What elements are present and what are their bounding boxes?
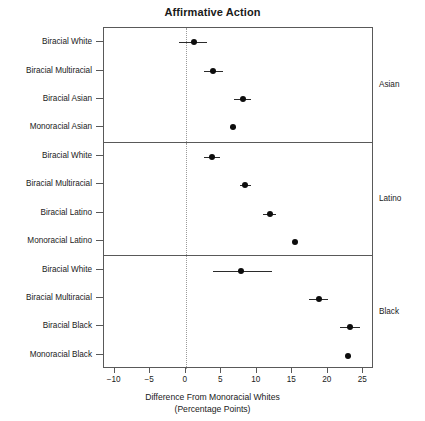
- panel-black: [104, 255, 372, 369]
- y-tick-label: Biracial Latino: [41, 207, 92, 216]
- data-point: [316, 296, 322, 302]
- zero-reference-line: [186, 256, 187, 369]
- y-tick-mark: [96, 126, 103, 127]
- x-tick-label: 15: [287, 375, 296, 384]
- data-point: [345, 353, 351, 359]
- x-tick-mark: [114, 368, 115, 373]
- y-tick-mark: [96, 212, 103, 213]
- x-tick-mark: [327, 368, 328, 373]
- y-tick-mark: [96, 240, 103, 241]
- y-tick-label: Biracial Multiracial: [26, 65, 92, 74]
- data-point: [191, 39, 197, 45]
- x-tick-mark: [256, 368, 257, 373]
- strip-label-asian: Asian: [379, 79, 399, 88]
- x-axis-title-line1: Difference From Monoracial Whites: [0, 392, 425, 404]
- x-tick-mark: [149, 368, 150, 373]
- x-tick-mark: [220, 368, 221, 373]
- data-point: [347, 324, 353, 330]
- y-tick-label: Biracial White: [42, 264, 92, 273]
- strip-label-black: Black: [379, 307, 399, 316]
- panel-strip-labels: AsianLatinoBlack: [376, 27, 425, 368]
- data-point: [230, 124, 236, 130]
- y-tick-label: Biracial Multiracial: [26, 179, 92, 188]
- y-tick-label: Monoracial Asian: [30, 122, 92, 131]
- panel-latino: [104, 142, 372, 256]
- panel-plot-area: [104, 28, 372, 142]
- data-point: [242, 182, 248, 188]
- x-tick-label: −10: [107, 375, 121, 384]
- chart-title: Affirmative Action: [0, 6, 425, 18]
- data-point: [267, 211, 273, 217]
- x-tick-label: 10: [251, 375, 260, 384]
- x-tick-label: −5: [145, 375, 154, 384]
- y-tick-label: Biracial White: [42, 37, 92, 46]
- y-axis-labels: Biracial WhiteBiracial MultiracialBiraci…: [0, 27, 103, 368]
- x-tick-label: 20: [322, 375, 331, 384]
- y-tick-mark: [96, 297, 103, 298]
- x-tick-label: 0: [182, 375, 187, 384]
- x-axis-title-line2: (Percentage Points): [0, 404, 425, 416]
- y-tick-mark: [96, 269, 103, 270]
- y-tick-mark: [96, 155, 103, 156]
- strip-label-latino: Latino: [379, 193, 401, 202]
- y-tick-mark: [96, 183, 103, 184]
- y-tick-mark: [96, 98, 103, 99]
- y-tick-label: Biracial Multiracial: [26, 292, 92, 301]
- y-tick-label: Biracial White: [42, 150, 92, 159]
- y-tick-label: Monoracial Black: [30, 349, 92, 358]
- x-tick-label: 25: [358, 375, 367, 384]
- y-tick-mark: [96, 70, 103, 71]
- data-point: [238, 268, 244, 274]
- panel-asian: [104, 28, 372, 142]
- x-tick-label: 5: [218, 375, 223, 384]
- y-tick-label: Biracial Asian: [43, 94, 92, 103]
- data-point: [210, 68, 216, 74]
- chart-root: Affirmative Action Biracial WhiteBiracia…: [0, 0, 425, 421]
- y-tick-mark: [96, 354, 103, 355]
- data-point: [240, 96, 246, 102]
- data-point: [209, 154, 215, 160]
- plot-panels: [103, 27, 373, 368]
- x-tick-mark: [362, 368, 363, 373]
- x-tick-mark: [185, 368, 186, 373]
- y-tick-mark: [96, 41, 103, 42]
- panel-plot-area: [104, 256, 372, 369]
- zero-reference-line: [186, 28, 187, 142]
- y-tick-label: Biracial Black: [43, 321, 92, 330]
- x-axis-title: Difference From Monoracial Whites (Perce…: [0, 392, 425, 415]
- panel-plot-area: [104, 143, 372, 256]
- x-tick-mark: [291, 368, 292, 373]
- data-point: [292, 239, 298, 245]
- y-tick-label: Monoracial Latino: [27, 236, 92, 245]
- zero-reference-line: [186, 143, 187, 256]
- y-tick-mark: [96, 325, 103, 326]
